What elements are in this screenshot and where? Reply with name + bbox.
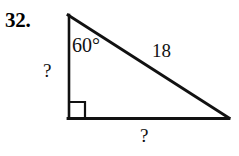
right-triangle-figure [0,0,239,156]
problem-number: 32. [5,10,30,31]
triangle-hypotenuse [68,15,229,118]
right-angle-marker-icon [69,102,85,118]
hypotenuse-length-label: 18 [152,41,171,60]
vertical-leg-unknown-label: ? [43,61,51,80]
angle-label-60-degrees: 60° [72,35,100,55]
horizontal-leg-unknown-label: ? [140,126,148,145]
figure-page: 32. 60° 18 ? ? [0,0,239,156]
